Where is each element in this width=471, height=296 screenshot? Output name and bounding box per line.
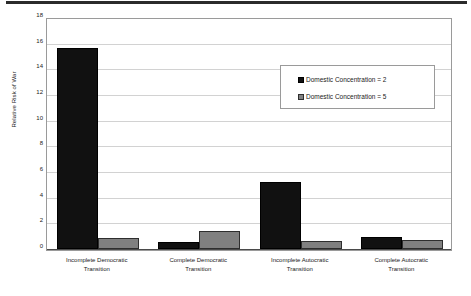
legend-entry-0: Domestic Concentration = 2: [298, 76, 386, 83]
bar-0-series-1: [98, 238, 139, 249]
y-tick-label-6: 6: [3, 166, 43, 172]
chart-legend: Domestic Concentration = 2 Domestic Conc…: [280, 65, 435, 109]
x-category-label-1-line-1: Transition: [148, 265, 250, 274]
y-tick-label-8: 8: [3, 140, 43, 146]
top-divider-rule: [6, 1, 467, 4]
x-category-label-0-line-1: Transition: [46, 265, 148, 274]
bar-3-series-1: [402, 240, 443, 249]
x-category-label-0-line-0: Incomplete Democratic: [46, 256, 148, 265]
x-category-label-3-line-1: Transition: [351, 265, 453, 274]
y-tick-label-2: 2: [3, 217, 43, 223]
y-tick-label-16: 16: [3, 38, 43, 44]
legend-swatch-black-icon: [298, 77, 304, 83]
y-tick-label-12: 12: [3, 89, 43, 95]
x-category-label-2: Incomplete AutocraticTransition: [249, 256, 351, 273]
x-axis-category-labels: Incomplete DemocraticTransitionComplete …: [46, 256, 452, 286]
legend-swatch-gray-icon: [298, 94, 304, 100]
bar-group-3: [361, 18, 443, 249]
legend-label-0: Domestic Concentration = 2: [306, 76, 386, 83]
y-tick-label-0: 0: [3, 243, 43, 249]
bar-0-series-0: [57, 48, 98, 249]
x-category-label-3: Complete AutocraticTransition: [351, 256, 453, 273]
bars-layer: [47, 19, 451, 250]
bar-1-series-0: [158, 242, 199, 249]
bar-group-2: [260, 18, 342, 249]
plot-area: Domestic Concentration = 2 Domestic Conc…: [46, 18, 452, 251]
x-category-label-3-line-0: Complete Autocratic: [351, 256, 453, 265]
y-tick-label-4: 4: [3, 192, 43, 198]
x-category-label-0: Incomplete DemocraticTransition: [46, 256, 148, 273]
x-category-label-1: Complete DemocraticTransition: [148, 256, 250, 273]
y-tick-label-14: 14: [3, 63, 43, 69]
y-axis-tick-labels: 024681012141618: [0, 18, 43, 251]
legend-label-1: Domestic Concentration = 5: [306, 93, 386, 100]
x-category-label-2-line-1: Transition: [249, 265, 351, 274]
bar-1-series-1: [199, 231, 240, 249]
bar-2-series-0: [260, 182, 301, 249]
bar-2-series-1: [301, 241, 342, 249]
legend-entry-1: Domestic Concentration = 5: [298, 93, 386, 100]
bar-3-series-0: [361, 237, 402, 249]
chart-figure: Relative Risk of War 024681012141618 Dom…: [0, 0, 471, 296]
y-tick-label-18: 18: [3, 12, 43, 18]
y-tick-label-10: 10: [3, 115, 43, 121]
x-category-label-2-line-0: Incomplete Autocratic: [249, 256, 351, 265]
x-category-label-1-line-0: Complete Democratic: [148, 256, 250, 265]
bar-group-1: [158, 18, 240, 249]
bar-group-0: [57, 18, 139, 249]
